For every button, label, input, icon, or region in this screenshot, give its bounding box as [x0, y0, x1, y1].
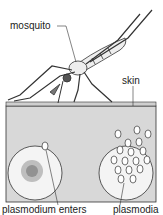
plasmodium-enters-label: plasmodium enters [2, 204, 86, 215]
plasmodia-label: plasmodia [113, 204, 159, 215]
skin-label: skin [122, 75, 140, 86]
malaria-diagram [0, 0, 163, 215]
mosquito-label: mosquito [10, 20, 51, 31]
